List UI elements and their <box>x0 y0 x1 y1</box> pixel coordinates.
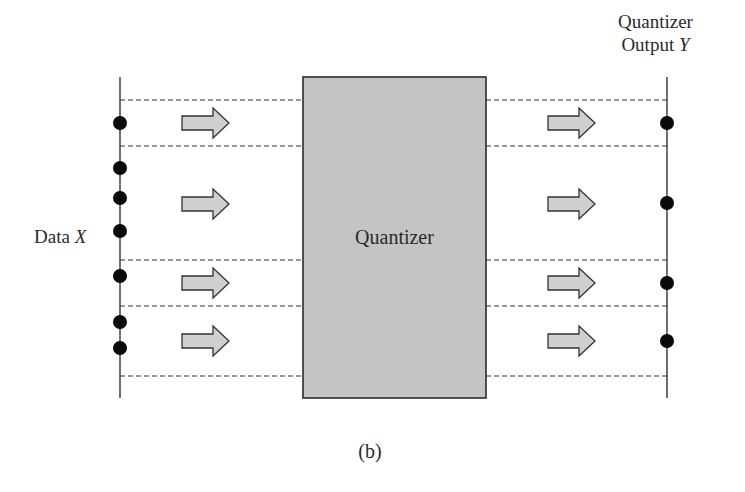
output-point <box>660 334 674 348</box>
right-arrow-icon <box>548 189 595 219</box>
input-point <box>113 191 127 205</box>
right-arrow-icon <box>548 326 595 356</box>
input-point <box>113 224 127 238</box>
output-label: Quantizer Output Y <box>618 10 693 56</box>
input-label: Data X <box>34 226 86 248</box>
quantizer-block-label: Quantizer <box>303 226 486 249</box>
input-point <box>113 315 127 329</box>
output-label-line2: Output Y <box>618 33 693 56</box>
right-arrow-icon <box>548 268 595 298</box>
output-label-line1: Quantizer <box>618 10 693 33</box>
right-arrow-icon <box>182 326 229 356</box>
output-point <box>660 276 674 290</box>
input-point <box>113 269 127 283</box>
input-point <box>113 161 127 175</box>
input-point <box>113 341 127 355</box>
output-point <box>660 116 674 130</box>
output-point <box>660 196 674 210</box>
right-arrow-icon <box>182 108 229 138</box>
right-arrow-icon <box>182 189 229 219</box>
input-point <box>113 116 127 130</box>
figure-caption: (b) <box>345 440 395 463</box>
right-arrow-icon <box>182 268 229 298</box>
right-arrow-icon <box>548 108 595 138</box>
